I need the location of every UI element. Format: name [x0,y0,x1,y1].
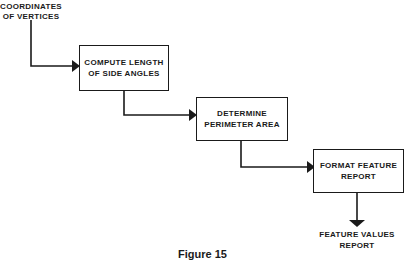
output-label: FEATURE VALUES REPORT [314,229,400,251]
step-box-format-feature: FORMAT FEATURE REPORT [313,149,404,193]
step-label: DETERMINE PERIMETER AREA [204,108,279,130]
step-box-determine-perimeter: DETERMINE PERIMETER AREA [196,97,288,141]
step-label: COMPUTE LENGTH OF SIDE ANGLES [84,57,163,79]
input-label: COORDINATES OF VERTICES [0,2,62,22]
step-label: FORMAT FEATURE REPORT [320,160,397,182]
arrow-down-icon [349,220,365,227]
figure-caption: Figure 15 [178,248,227,260]
step-box-compute-length: COMPUTE LENGTH OF SIDE ANGLES [79,45,169,91]
